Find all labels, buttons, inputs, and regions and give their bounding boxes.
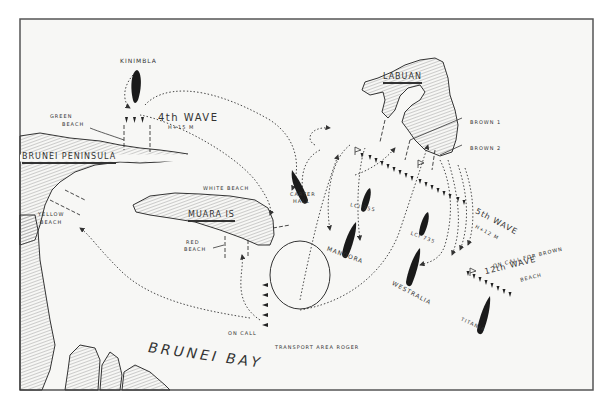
map-paper	[20, 19, 593, 390]
label-red-beach-2: BEACH	[184, 247, 206, 252]
label-carter-hall-2: HALL	[293, 199, 310, 204]
label-on-call: ON CALL	[228, 331, 257, 336]
label-yellow-beach-2: BEACH	[40, 220, 62, 225]
label-brown-2: BROWN 2	[470, 146, 501, 151]
label-brunei-peninsula: BRUNEI PENINSULA	[22, 153, 116, 164]
label-green-beach-2: BEACH	[62, 122, 84, 127]
label-4th-wave-time: H+15 M	[168, 125, 194, 130]
label-brown-1: BROWN 1	[470, 120, 501, 125]
label-labuan: LABUAN	[383, 73, 422, 84]
label-yellow-beach-1: YELLOW	[38, 212, 65, 217]
label-transport-area-roger: TRANSPORT AREA ROGER	[275, 345, 359, 350]
label-kinimbla: KINIMBLA	[120, 58, 157, 64]
label-green-beach-1: GREEN	[50, 114, 72, 119]
label-muara-island: MUARA IS	[188, 211, 235, 222]
label-red-beach-1: RED	[186, 240, 199, 245]
label-4th-wave: 4th WAVE	[158, 113, 219, 123]
label-carter-hall-1: CARTER	[290, 192, 316, 197]
label-white-beach: WHITE BEACH	[203, 186, 249, 191]
